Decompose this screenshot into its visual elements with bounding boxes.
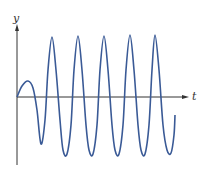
y-axis-label: y	[12, 12, 20, 25]
graph: y t	[0, 0, 205, 174]
t-axis-label: t	[192, 90, 197, 103]
t-axis-arrow-icon	[182, 95, 189, 99]
oscillation-curve	[17, 35, 175, 156]
y-axis-arrow-icon	[15, 24, 19, 31]
